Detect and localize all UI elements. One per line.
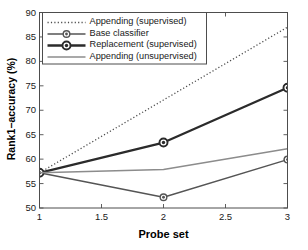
x-tick-label: 1 [26, 211, 54, 222]
y-tick-label: 70 [14, 104, 36, 115]
x-tick-label: 1.5 [88, 211, 116, 222]
series-marker-dot-1-1 [162, 196, 165, 199]
y-tick-label: 60 [14, 153, 36, 164]
y-tick-label: 85 [14, 31, 36, 42]
legend-entry-label: Appending (supervised) [90, 16, 187, 26]
x-tick-label: 2.5 [212, 211, 240, 222]
y-tick-label: 65 [14, 129, 36, 140]
series-marker-dot-2-1 [162, 141, 165, 144]
legend-entry-label: Appending (unsupervised) [90, 51, 197, 61]
legend-entry-label: Replacement (supervised) [90, 39, 197, 49]
legend-sample-dot-1 [65, 33, 68, 36]
x-axis-label: Probe set [40, 228, 288, 240]
chart-figure: Rank1−accuracy (%) Probe set 50556065707… [0, 0, 308, 250]
y-tick-label: 90 [14, 7, 36, 18]
y-tick-label: 80 [14, 55, 36, 66]
y-tick-label: 55 [14, 178, 36, 189]
y-tick-label: 75 [14, 80, 36, 91]
x-tick-label: 2 [150, 211, 178, 222]
x-tick-label: 3 [274, 211, 302, 222]
legend-sample-dot-2 [65, 44, 68, 47]
legend-entry-label: Base classifier [90, 28, 149, 38]
